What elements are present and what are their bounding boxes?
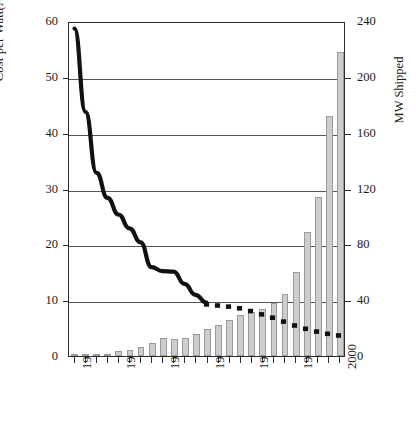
y-axis-right-tick-mark xyxy=(345,78,351,79)
cost-line-marker xyxy=(314,329,319,334)
x-axis-tick-mark xyxy=(74,357,75,363)
y-axis-right-tick-mark xyxy=(345,134,351,135)
chart-container: Cost per Watt(AU$/Wp) MW Shipped 0102030… xyxy=(0,0,416,431)
y-axis-right-tick-mark xyxy=(345,301,351,302)
x-axis-tick-mark xyxy=(195,357,196,363)
y-axis-left-tick-label: 40 xyxy=(0,127,67,140)
y-axis-left-tick-label: 0 xyxy=(0,350,67,363)
cost-line-marker xyxy=(237,306,242,311)
x-axis-tick-mark xyxy=(107,357,108,363)
cost-line-marker xyxy=(303,327,308,332)
cost-line-marker xyxy=(215,303,220,308)
cost-line-marker xyxy=(259,312,264,317)
x-axis-tick-mark xyxy=(184,357,185,363)
x-axis-tick-mark xyxy=(207,357,208,363)
y-axis-left-tick-label: 60 xyxy=(0,15,67,28)
y-axis-right-tick-label: 200 xyxy=(357,71,376,84)
y-axis-right-tick-label: 80 xyxy=(357,238,370,251)
x-axis-tick-mark xyxy=(251,357,252,363)
cost-line-marker xyxy=(325,332,330,337)
cost-line-marker xyxy=(292,323,297,328)
cost-line-historical xyxy=(75,29,207,303)
x-axis-tick-mark xyxy=(284,357,285,363)
y-axis-left-tick-label: 10 xyxy=(0,294,67,307)
cost-line-marker xyxy=(204,302,209,307)
y-axis-right-tick-label: 120 xyxy=(357,183,376,196)
x-axis-tick-mark xyxy=(118,357,119,363)
cost-line-marker xyxy=(226,304,231,309)
y-axis-left-tick-label: 30 xyxy=(0,183,67,196)
y-axis-left-tick-label: 50 xyxy=(0,71,67,84)
line-series-cost-per-watt xyxy=(69,23,344,356)
plot-area xyxy=(68,22,345,357)
x-axis-tick-label: 2000 xyxy=(345,344,360,369)
y-axis-left-tick-label: 20 xyxy=(0,238,67,251)
x-axis-tick-mark xyxy=(317,357,318,363)
cost-line-marker xyxy=(248,309,253,314)
x-axis-tick-mark xyxy=(240,357,241,363)
x-axis-tick-mark xyxy=(229,357,230,363)
y-axis-right-tick-label: 160 xyxy=(357,127,376,140)
x-axis-tick-mark xyxy=(96,357,97,363)
y-axis-right-tick-label: 40 xyxy=(357,294,370,307)
x-axis-tick-mark xyxy=(140,357,141,363)
cost-line-marker xyxy=(336,333,341,338)
y-axis-right-tick-label: 240 xyxy=(357,15,376,28)
x-axis-tick-mark xyxy=(273,357,274,363)
cost-line-marker xyxy=(270,315,275,320)
y-axis-right-tick-mark xyxy=(345,190,351,191)
x-axis-tick-mark xyxy=(339,357,340,363)
y-axis-right-tick-mark xyxy=(345,245,351,246)
cost-line-marker xyxy=(281,319,286,324)
x-axis-tick-mark xyxy=(162,357,163,363)
y-axis-right-title: MW Shipped xyxy=(392,20,407,160)
x-axis-tick-mark xyxy=(151,357,152,363)
x-axis-tick-mark xyxy=(328,357,329,363)
x-axis-tick-mark xyxy=(295,357,296,363)
